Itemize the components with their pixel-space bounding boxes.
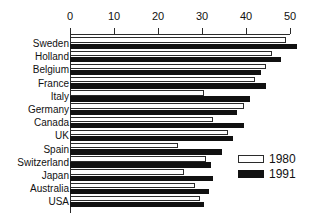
- bar-1991: [70, 176, 213, 181]
- category-label: Australia: [0, 182, 69, 195]
- x-tick-label: 0: [58, 11, 82, 22]
- bar-1991: [70, 189, 209, 194]
- bar-1991: [70, 44, 297, 49]
- legend-item-1980: 1980: [238, 152, 314, 167]
- bar-chart: 01020304050 SwedenHollandBelgiumFranceIt…: [0, 0, 317, 223]
- x-tick-label: 10: [102, 11, 126, 22]
- chart-row: UK: [0, 129, 317, 142]
- legend-label-1980: 1980: [269, 152, 296, 166]
- bar-1991: [70, 202, 204, 207]
- bar-1991: [70, 149, 222, 154]
- plot-area: SwedenHollandBelgiumFranceItalyGermanyCa…: [0, 35, 317, 213]
- chart-row: Belgium: [0, 63, 317, 76]
- bar-1980: [70, 183, 195, 188]
- legend-label-1991: 1991: [269, 167, 296, 181]
- bar-1991: [70, 123, 244, 128]
- category-label: Italy: [0, 90, 69, 103]
- bar-1991: [70, 83, 266, 88]
- bar-1980: [70, 130, 228, 135]
- bar-1980: [70, 37, 286, 42]
- category-label: Germany: [0, 103, 69, 116]
- bar-1991: [70, 70, 261, 75]
- chart-row: Italy: [0, 90, 317, 103]
- chart-row: Germany: [0, 103, 317, 116]
- category-label: Holland: [0, 50, 69, 63]
- category-label: Sweden: [0, 37, 69, 50]
- category-label: Spain: [0, 143, 69, 156]
- category-label: Belgium: [0, 63, 69, 76]
- bar-1991: [70, 96, 250, 101]
- category-label: Canada: [0, 116, 69, 129]
- x-tick-label: 30: [190, 11, 214, 22]
- bar-1980: [70, 51, 272, 56]
- bar-1980: [70, 90, 204, 95]
- bar-1980: [70, 103, 244, 108]
- chart-row: France: [0, 77, 317, 90]
- x-tick-label: 40: [234, 11, 258, 22]
- legend-swatch-1991: [238, 170, 264, 178]
- x-axis: 01020304050: [0, 0, 317, 40]
- legend-item-1991: 1991: [238, 167, 314, 182]
- chart-legend: 1980 1991: [238, 152, 314, 182]
- category-label: Japan: [0, 169, 69, 182]
- bar-1980: [70, 156, 206, 161]
- bar-1980: [70, 64, 266, 69]
- chart-row: Canada: [0, 116, 317, 129]
- chart-row: Holland: [0, 50, 317, 63]
- bar-1980: [70, 117, 213, 122]
- x-tick-label: 20: [146, 11, 170, 22]
- bar-1980: [70, 169, 184, 174]
- chart-row: USA: [0, 195, 317, 208]
- bar-1980: [70, 196, 200, 201]
- bar-1991: [70, 110, 237, 115]
- x-tick-mark: [290, 28, 291, 34]
- category-label: USA: [0, 195, 69, 208]
- bar-1980: [70, 143, 178, 148]
- bar-1991: [70, 57, 281, 62]
- category-label: UK: [0, 129, 69, 142]
- bar-1991: [70, 162, 211, 167]
- chart-row: Australia: [0, 182, 317, 195]
- category-label: Switzerland: [0, 156, 69, 169]
- x-tick-label: 50: [278, 11, 302, 22]
- category-label: France: [0, 77, 69, 90]
- bar-1991: [70, 136, 233, 141]
- chart-row: Sweden: [0, 37, 317, 50]
- legend-swatch-1980: [238, 155, 264, 163]
- bar-1980: [70, 77, 255, 82]
